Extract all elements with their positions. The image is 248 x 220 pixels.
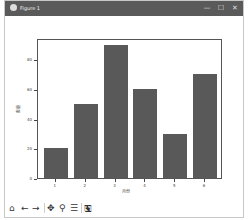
y-tick-mark [34, 120, 37, 121]
back-arrow-icon[interactable]: ← [21, 202, 29, 214]
maximize-button[interactable]: ☐ [215, 3, 227, 13]
y-tick-mark [34, 60, 37, 61]
y-tick-mark [34, 179, 37, 180]
close-button[interactable]: ✕ [229, 3, 241, 13]
bar-3 [104, 45, 128, 178]
toolbar-separator [81, 203, 82, 213]
y-axis-label: 数量 [15, 105, 21, 113]
figure-canvas: 123456020406080 月份 数量 [5, 16, 243, 199]
toolbar-separator [44, 203, 45, 213]
window-title: Figure 1 [20, 5, 40, 11]
x-tick-mark [144, 179, 145, 182]
y-tick-mark [34, 90, 37, 91]
y-tick-label: 20 [20, 146, 32, 151]
figure-window: Figure 1 — ☐ ✕ 123456020406080 月份 数量 ⌂ ←… [4, 0, 244, 218]
minimize-button[interactable]: — [201, 3, 213, 13]
save-icon[interactable]: 🖫 [84, 202, 92, 214]
bar-5 [163, 134, 187, 178]
x-tick-mark [115, 179, 116, 182]
x-tick-label: 6 [200, 183, 208, 188]
y-tick-label: 60 [20, 87, 32, 92]
y-tick-label: 40 [20, 117, 32, 122]
x-tick-label: 4 [140, 183, 148, 188]
y-tick-mark [34, 149, 37, 150]
app-icon [10, 4, 17, 11]
x-tick-label: 3 [111, 183, 119, 188]
x-tick-mark [55, 179, 56, 182]
configure-subplots-icon[interactable]: ☰ [70, 202, 78, 214]
plot-axes [37, 39, 222, 179]
pan-icon[interactable]: ✥ [47, 202, 55, 214]
title-bar: Figure 1 — ☐ ✕ [5, 1, 243, 16]
zoom-icon[interactable]: ⚲ [59, 202, 66, 214]
forward-arrow-icon[interactable]: → [32, 202, 40, 214]
home-icon[interactable]: ⌂ [9, 202, 15, 214]
y-tick-label: 0 [20, 176, 32, 181]
y-tick-label: 80 [20, 57, 32, 62]
navigation-toolbar: ⌂ ← → ✥ ⚲ ☰ 🖫 [5, 199, 243, 217]
x-tick-label: 5 [170, 183, 178, 188]
bar-4 [133, 89, 157, 178]
x-axis-label: 月份 [122, 188, 130, 194]
bar-6 [193, 74, 217, 178]
x-tick-label: 2 [81, 183, 89, 188]
x-tick-label: 1 [51, 183, 59, 188]
x-tick-mark [204, 179, 205, 182]
bar-1 [44, 148, 68, 178]
x-tick-mark [174, 179, 175, 182]
bar-2 [74, 104, 98, 178]
x-tick-mark [85, 179, 86, 182]
